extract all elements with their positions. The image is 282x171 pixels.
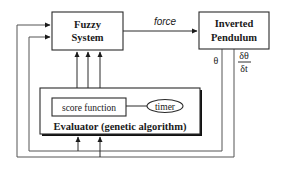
timer-node: timer: [147, 100, 183, 113]
dtheta-dt-label: δθ δt: [238, 50, 251, 74]
diagram-canvas: Fuzzy System force Inverted Pendulum θ δ…: [0, 0, 282, 171]
timer-label: timer: [155, 102, 176, 112]
dtheta-numerator: δθ: [239, 50, 249, 61]
inverted-pendulum-node: Inverted Pendulum: [199, 12, 269, 49]
force-arrow: force: [123, 16, 197, 31]
inverted-pendulum-label-line1: Inverted: [215, 18, 254, 29]
fuzzy-system-node: Fuzzy System: [52, 12, 123, 50]
evaluator-label: Evaluator (genetic algorithm): [54, 121, 187, 133]
fuzzy-system-label-line1: Fuzzy: [74, 19, 102, 30]
fuzzy-system-label-line2: System: [71, 32, 103, 43]
theta-label: θ: [214, 55, 219, 66]
force-label: force: [154, 16, 177, 27]
dtheta-denominator: δt: [240, 63, 248, 74]
score-function-label: score function: [62, 103, 116, 113]
evaluator-to-fuzzy-arrows: [77, 52, 100, 88]
score-function-node: score function: [52, 98, 126, 116]
inverted-pendulum-label-line2: Pendulum: [211, 32, 257, 43]
